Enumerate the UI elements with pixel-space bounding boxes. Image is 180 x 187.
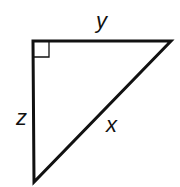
label-z: z <box>15 105 27 130</box>
label-x: x <box>105 112 118 137</box>
right-angle-marker <box>33 41 49 57</box>
label-y: y <box>94 8 109 33</box>
right-triangle-diagram: y z x <box>0 0 180 187</box>
triangle <box>33 41 171 182</box>
